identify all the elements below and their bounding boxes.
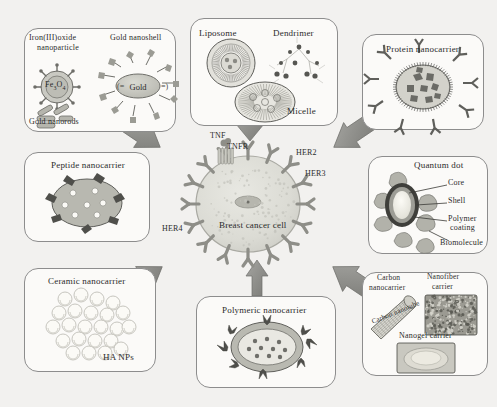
nanogel-carrier-label: Nanogel carrier <box>399 331 452 340</box>
figure-canvas: Gold (= =) Iron(III)oxide nanoparticle F… <box>0 0 497 407</box>
svg-text:(=: (= <box>117 82 125 91</box>
quantum-dot-title: Quantum dot <box>414 160 463 170</box>
ceramic-nanocarrier-title: Ceramic nanocarrier <box>48 276 126 286</box>
breast-cancer-cell[interactable] <box>178 140 318 268</box>
breast-cancer-cell-label: Breast cancer cell <box>219 220 287 230</box>
iron-oxide-title-line1: Iron(III)oxide <box>29 33 76 42</box>
receptor-label-tnf: TNF <box>210 131 226 140</box>
micelle-label: Micelle <box>287 106 316 116</box>
quantum-dot-coating-label: coating <box>450 223 475 232</box>
iron-oxide-title-line2: nanoparticle <box>37 43 79 52</box>
svg-text:=): =) <box>161 82 169 91</box>
cell-graphics <box>178 140 318 268</box>
carbon-nanocarrier-line1: Carbon <box>377 273 400 282</box>
receptor-label-her4: HER4 <box>162 224 183 233</box>
nanofiber-carrier-line2: carrier <box>432 282 453 291</box>
polymeric-nanocarrier-title: Polymeric nanocarrier <box>222 305 306 315</box>
quantum-dot-biomolecule-label: Biomolecule <box>440 238 483 247</box>
peptide-nanocarrier-title: Peptide nanocarrier <box>51 160 125 170</box>
ha-nps-label: HA NPs <box>103 352 134 362</box>
carbon-nanocarrier-line2: nanocarrier <box>369 283 405 292</box>
svg-text:Gold: Gold <box>130 82 148 92</box>
protein-nanocarrier-title: Protein nanocarrier <box>386 44 459 54</box>
iron-oxide-core-formula: Fe3O4 <box>45 80 66 91</box>
quantum-dot-polymer-label: Polymer <box>448 214 477 223</box>
receptor-label-her3: HER3 <box>305 169 326 178</box>
quantum-dot-shell-label: Shell <box>448 196 465 205</box>
gold-nanoshell-title: Gold nanoshell <box>110 33 161 42</box>
gold-nanorods-label: Gold nanorods <box>29 117 79 126</box>
quantum-dot-core-label: Core <box>448 178 464 187</box>
dendrimer-label: Dendrimer <box>273 28 314 38</box>
nanofiber-carrier-line1: Nanofiber <box>427 272 459 281</box>
formula-sub-4: 4 <box>63 85 66 91</box>
liposome-label: Liposome <box>199 28 237 38</box>
receptor-label-tnfr: TNFR <box>227 142 248 151</box>
receptor-label-her2: HER2 <box>296 148 317 157</box>
